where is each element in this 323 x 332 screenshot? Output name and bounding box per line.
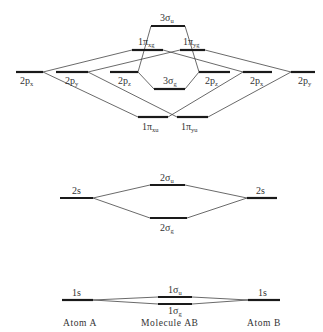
label-m-1pxu: 1πxu — [142, 121, 159, 133]
label-atom-b: Atom B — [247, 318, 281, 328]
label-b-2s: 2s — [256, 185, 265, 196]
label-atom-a: Atom A — [63, 318, 97, 328]
label-b-2py: 2py — [298, 75, 312, 87]
label-a-2px: 2px — [20, 75, 34, 87]
label-m-1pxg: 1πxg — [138, 36, 155, 48]
label-m-1su: 1σu — [168, 284, 182, 296]
mo-diagram: 2px 2py 2pz 2pz 2px 2py 3σu 1πxg 1πyg 3σ… — [0, 0, 323, 332]
label-b-2pz: 2pz — [205, 75, 218, 87]
label-m-1pyg: 1πyg — [183, 36, 200, 48]
column-labels: Atom A Molecule AB Atom B — [63, 318, 281, 328]
label-m-2sg: 2σg — [160, 222, 174, 234]
label-m-2su: 2σu — [160, 172, 174, 184]
label-a-2s: 2s — [72, 185, 81, 196]
levels-2s — [60, 185, 277, 218]
labels-2s: 2s 2s 2σu 2σg — [72, 172, 265, 234]
label-m-1pyu: 1πyu — [181, 121, 198, 133]
label-b-1s: 1s — [258, 287, 267, 298]
levels-2p — [16, 26, 315, 117]
label-m-3sg: 3σg — [163, 75, 177, 87]
label-b-2px: 2px — [250, 75, 264, 87]
label-a-2py: 2py — [65, 75, 79, 87]
label-a-1s: 1s — [72, 287, 81, 298]
label-m-3su: 3σu — [160, 12, 174, 24]
label-m-1sg: 1σg — [168, 305, 182, 317]
connectors-2s — [93, 185, 247, 218]
label-molecule-ab: Molecule AB — [141, 318, 199, 328]
label-a-2pz: 2pz — [118, 75, 131, 87]
